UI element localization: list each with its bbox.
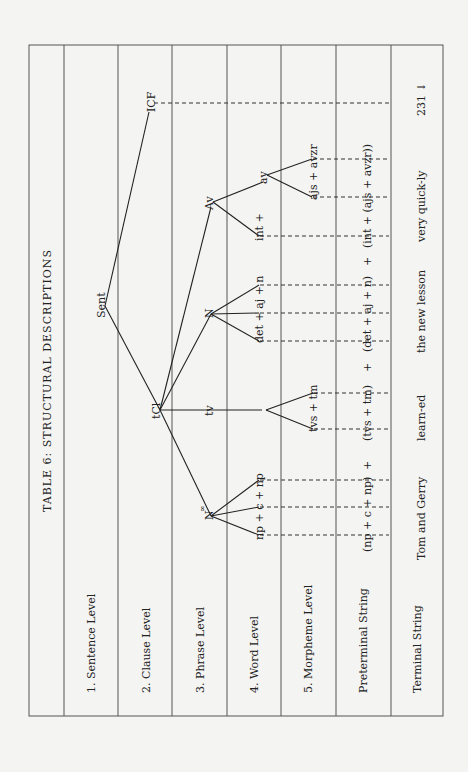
table-title: TABLE 6: STRUCTURAL DESCRIPTIONS bbox=[41, 249, 54, 512]
terminal-verb: learn-ed bbox=[415, 395, 428, 441]
morpheme-adverb: ajs + avzr bbox=[307, 144, 320, 200]
row-label-sentence: 1. Sentence Level bbox=[85, 593, 98, 693]
preterminal-subject: (np + c + np) bbox=[361, 477, 374, 552]
row-label-clause: 2. Clause Level bbox=[140, 607, 153, 693]
row-label-phrase: 3. Phrase Level bbox=[194, 607, 207, 693]
preterminal-plus: + bbox=[361, 461, 374, 470]
node-subject-sup: ∞ bbox=[198, 505, 207, 512]
structural-descriptions-table: TABLE 6: STRUCTURAL DESCRIPTIONS 1. Sent… bbox=[0, 0, 468, 772]
row-label-word: 4. Word Level bbox=[248, 615, 261, 693]
row-label-terminal: Terminal String bbox=[411, 605, 424, 693]
terminal-adverb: very quick-ly bbox=[415, 170, 428, 243]
node-sent: Sent bbox=[95, 292, 108, 318]
page-number: 231 ↓ bbox=[415, 82, 428, 116]
row-label-morpheme: 5. Morpheme Level bbox=[302, 584, 315, 693]
terminal-object: the new lesson bbox=[415, 270, 428, 353]
node-tcl: tCl bbox=[150, 402, 163, 419]
preterminal-plus: + bbox=[361, 257, 374, 266]
node-av: Av bbox=[203, 196, 216, 211]
word-subject: np + c + np bbox=[253, 473, 266, 540]
node-icf: ICF bbox=[145, 91, 158, 112]
node-tv: tv bbox=[203, 405, 216, 416]
preterminal-adverb: (int + (ajs + avzr)) bbox=[361, 144, 374, 248]
row-label-preterminal: Preterminal String bbox=[357, 588, 370, 693]
morpheme-verb: tvs + tm bbox=[307, 384, 320, 432]
preterminal-object: (det + aj + n) bbox=[361, 276, 374, 352]
node-object-n: N bbox=[203, 308, 216, 318]
word-int: int + bbox=[253, 213, 266, 241]
word-object: det + aj + n bbox=[253, 276, 266, 343]
word-av: av bbox=[257, 170, 270, 184]
preterminal-verb: (tvs + tm) bbox=[361, 385, 374, 441]
preterminal-plus: + bbox=[361, 363, 374, 372]
tree-edges bbox=[105, 112, 313, 535]
terminal-subject: Tom and Gerry bbox=[415, 476, 428, 560]
